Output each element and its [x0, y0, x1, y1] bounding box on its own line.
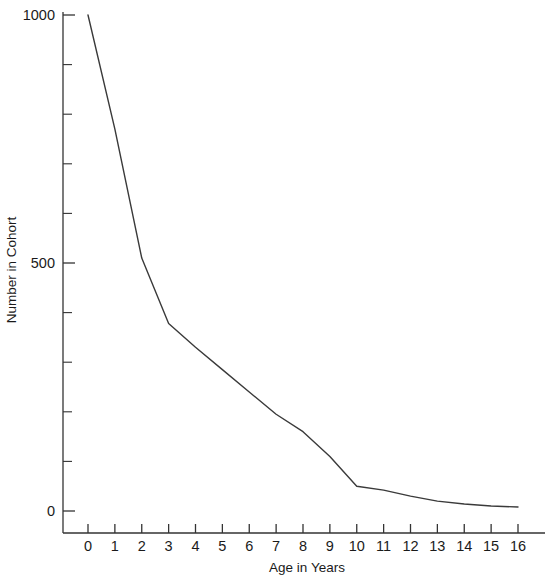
y-axis-tick-label: 1000: [23, 7, 55, 23]
x-axis-tick-label: 6: [245, 538, 253, 554]
x-axis-tick-label: 5: [218, 538, 226, 554]
x-axis-tick-label: 15: [483, 538, 499, 554]
x-axis-tick-label: 16: [510, 538, 526, 554]
x-axis-tick-label: 2: [138, 538, 146, 554]
chart-background: [0, 0, 554, 579]
x-axis-tick-label: 10: [349, 538, 365, 554]
y-axis-title: Number in Cohort: [4, 216, 19, 323]
x-axis-tick-label: 7: [272, 538, 280, 554]
x-axis-tick-label: 12: [402, 538, 418, 554]
y-axis-tick-label: 0: [47, 503, 55, 519]
x-axis-title: Age in Years: [269, 560, 345, 575]
x-axis-tick-label: 0: [84, 538, 92, 554]
x-axis-tick-label: 13: [429, 538, 445, 554]
x-axis-tick-label: 8: [299, 538, 307, 554]
x-axis-tick-label: 14: [456, 538, 472, 554]
x-axis-tick-label: 3: [165, 538, 173, 554]
x-axis-tick-label: 9: [326, 538, 334, 554]
chart-container: 05001000 012345678910111213141516 Age in…: [0, 0, 554, 579]
x-axis-tick-label: 1: [111, 538, 119, 554]
x-axis-tick-label: 4: [191, 538, 199, 554]
line-chart: 05001000 012345678910111213141516 Age in…: [0, 0, 554, 579]
y-axis-tick-label: 500: [31, 255, 55, 271]
x-axis-tick-label: 11: [376, 538, 391, 554]
